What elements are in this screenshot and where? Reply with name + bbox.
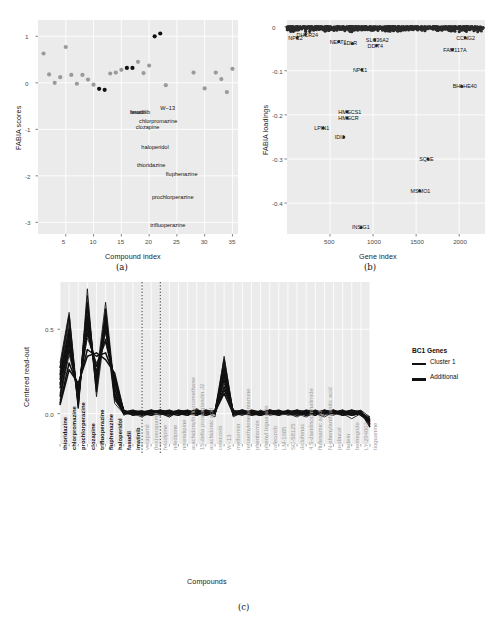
legend-label: Cluster 1 (430, 358, 456, 365)
data-point (191, 70, 195, 74)
data-point (58, 75, 62, 79)
loading-point (392, 26, 395, 29)
data-point (69, 73, 73, 77)
loading-point (314, 27, 317, 30)
loading-point (402, 25, 405, 28)
data-point (108, 71, 112, 75)
data-point (164, 83, 168, 87)
panel-c-x-axis-title: Compounds (187, 577, 227, 586)
panel-b-caption: (b) (364, 262, 376, 272)
data-point (230, 67, 234, 71)
panel-c-category-label: bemegride (354, 422, 360, 450)
panel-c-category-label: phenyl biguanide (263, 405, 269, 450)
panel-b-gene-label: FAM117A (443, 47, 466, 53)
panel-c-category-label: W−13 (226, 434, 232, 450)
loading-point (341, 28, 344, 31)
data-point (80, 73, 84, 77)
panel-c-category-label: rofecoxib (272, 426, 278, 450)
panel-c-category-label: imatinib (135, 427, 141, 450)
panel-c-category-label: SC-58125 (290, 423, 296, 450)
loading-point (310, 25, 313, 28)
loading-point (460, 29, 463, 32)
loading-point (427, 25, 430, 28)
panel-b-gene-label: INSIG1 (352, 224, 370, 230)
panel-b-gene-label: IDI1 (335, 134, 345, 140)
panel-b-gene-label: LPIN1 (314, 125, 329, 131)
data-point (225, 90, 229, 94)
loading-point (481, 26, 484, 29)
data-point (153, 34, 157, 38)
panel-a-point-label: trifluoperazine (150, 222, 185, 228)
panel-c-lines (0, 272, 494, 630)
loading-point (405, 28, 408, 31)
loading-point (339, 26, 342, 29)
loading-point (374, 26, 377, 29)
loading-point (411, 26, 414, 29)
data-point (203, 86, 207, 90)
panel-a-x-axis-title: Compound index (105, 252, 161, 261)
panel-a-point-label: thioridazine (137, 162, 166, 168)
panel-b-gene-label: HMGCS1 (338, 109, 361, 115)
data-point (97, 87, 101, 91)
panel-c-category-label: LY-294002 (363, 422, 369, 450)
panel-b-gene-label: DDIT4 (368, 43, 384, 49)
data-point (41, 51, 45, 55)
panel-a-y-tick: -3 (25, 219, 31, 226)
loading-point (365, 27, 368, 30)
figure-root: FABIA scores Compound index (a) 51015202… (0, 0, 494, 630)
panel-a: FABIA scores Compound index (a) 51015202… (0, 0, 247, 270)
legend-label: Additional (430, 373, 458, 380)
data-point (219, 77, 223, 81)
panel-b-gene-label: DHCR24 (297, 32, 319, 38)
data-point (91, 83, 95, 87)
data-point (125, 66, 129, 70)
loading-point (372, 29, 375, 32)
data-point (130, 66, 134, 70)
loading-point (399, 29, 402, 32)
panel-b: FABIA loadings Gene index (b) 5001000150… (247, 0, 494, 270)
panel-c-category-label: haloperidol (117, 418, 123, 450)
panel-b-x-tick: 2000 (453, 238, 467, 245)
data-point (114, 70, 118, 74)
panel-c-category-label: arachidonic acid (208, 407, 214, 450)
panel-b-gene-label: MSMO1 (411, 188, 431, 194)
panel-c-category-label: prochlorperazine (80, 402, 86, 450)
loading-point (424, 27, 427, 30)
panel-c-category-label: chlorpromazine (71, 406, 77, 450)
panel-c-category-label: N-phenylanthranilic acid (327, 387, 333, 450)
loading-point (473, 28, 476, 31)
panel-c: Centered read-out Compounds (c) BC1 Gene… (0, 272, 494, 630)
panel-c-category-label: butein (345, 434, 351, 450)
data-point (158, 31, 162, 35)
legend-swatch (412, 363, 426, 365)
loading-point (420, 28, 423, 31)
loading-point (327, 29, 330, 32)
panel-c-category-label: LM-1685 (281, 427, 287, 450)
panel-a-x-tick: 20 (145, 238, 152, 245)
panel-c-category-label: phentermin (254, 421, 260, 450)
panel-b-x-tick: 1000 (367, 238, 381, 245)
panel-b-y-tick: 0 (272, 24, 275, 31)
panel-c-caption: (c) (238, 602, 249, 612)
panel-a-y-tick: 1 (25, 33, 28, 40)
panel-c-category-label: tetraethylenepentamine (245, 388, 251, 450)
panel-b-gene-label: SQLE (419, 156, 433, 162)
data-point (119, 68, 123, 72)
panel-a-y-axis-title: FABIA scores (14, 106, 23, 150)
panel-c-category-label: celecoxib (217, 425, 223, 450)
panel-c-y-tick: 0.0 (45, 411, 54, 418)
panel-c-y-axis-title: Centered read-out (22, 347, 31, 407)
loading-point (287, 28, 290, 31)
panel-a-x-tick: 25 (173, 238, 180, 245)
data-point (86, 77, 90, 81)
loading-point (436, 27, 439, 30)
panel-c-category-label: trifluoperazine (99, 409, 105, 450)
panel-c-category-label: 4,5-dianilinophthalimide (308, 388, 314, 450)
data-point (103, 88, 107, 92)
panel-a-point-label: fluphenazine (166, 171, 198, 177)
panel-a-y-tick: 0 (25, 80, 28, 87)
loading-point (295, 26, 298, 29)
loading-point (453, 30, 456, 33)
panel-c-category-label: arachidonyltrifluoromethane (190, 377, 196, 450)
panel-b-y-tick: -0.4 (272, 200, 283, 207)
